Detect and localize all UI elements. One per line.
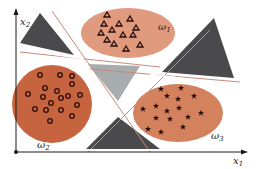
class-omega2-region xyxy=(12,65,92,143)
origin-dot xyxy=(14,150,18,154)
omega3-label: ω3 xyxy=(211,130,224,143)
region-top-left-triangle xyxy=(20,13,74,55)
class-omega3-region xyxy=(133,84,223,142)
y-axis-arrow-icon xyxy=(14,8,19,15)
y-axis-label: x2 xyxy=(20,16,31,29)
decision-regions-diagram: x2 x1 ω1 ω2 ω3 xyxy=(0,0,256,169)
x-axis-label: x1 xyxy=(233,155,243,168)
x-axis-arrow-icon xyxy=(241,150,248,155)
